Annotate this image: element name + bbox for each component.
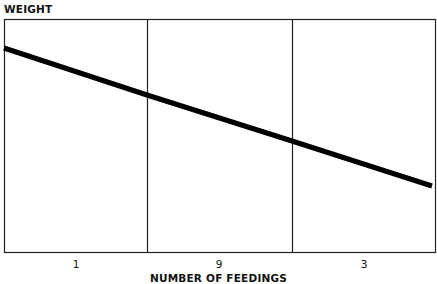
chart-plot-area [0, 0, 437, 284]
plot-frame [5, 20, 436, 253]
x-axis-label: NUMBER OF FEEDINGS [0, 272, 437, 284]
x-tick-label: 1 [56, 258, 96, 270]
weight-trend-line [4, 48, 432, 186]
x-tick-label: 9 [199, 258, 239, 270]
x-tick-label: 3 [344, 258, 384, 270]
